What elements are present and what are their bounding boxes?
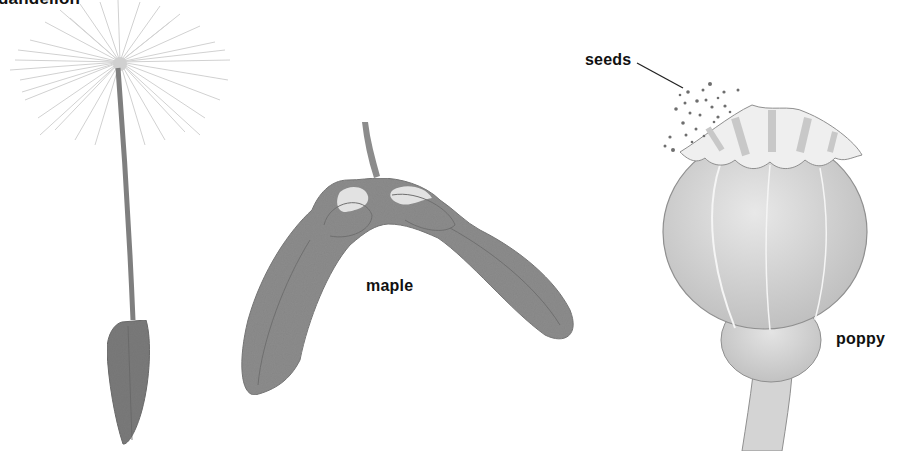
seeds-label: seeds	[585, 51, 631, 69]
maple-stem	[362, 122, 380, 178]
poppy-stem	[742, 375, 792, 451]
dandelion-illustration	[10, 0, 230, 444]
seeds-pointer-line	[637, 63, 683, 88]
seed-illustration	[0, 0, 897, 451]
poppy-label: poppy	[836, 330, 885, 348]
maple-label: maple	[366, 277, 413, 295]
poppy-illustration	[637, 63, 867, 451]
dandelion-stalk	[118, 68, 133, 320]
maple-illustration	[242, 122, 573, 395]
